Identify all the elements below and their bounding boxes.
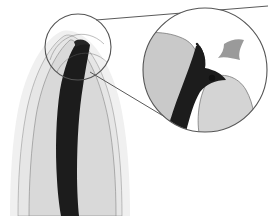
tooth-apex-figure: [0, 0, 275, 216]
apex-dot-marker: [209, 75, 215, 81]
figure-container: [0, 0, 275, 216]
